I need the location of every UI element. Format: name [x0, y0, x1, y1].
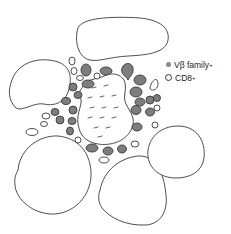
legend: Vβ family+ CD8+ [165, 58, 213, 84]
gray-filled-circle-icon [166, 62, 171, 67]
lesion-diagram [0, 0, 231, 234]
legend-label-cd8: CD8 [175, 73, 192, 83]
large-cell-bottom-left [15, 136, 91, 214]
open-circle-icon [165, 74, 172, 81]
legend-label-vb-family: Vβ family [174, 60, 209, 70]
large-cell-top [77, 17, 169, 60]
legend-item-cd8: CD8+ [165, 71, 213, 84]
large-cell-bottom-right [148, 126, 204, 178]
legend-item-vb-family: Vβ family+ [165, 58, 213, 71]
